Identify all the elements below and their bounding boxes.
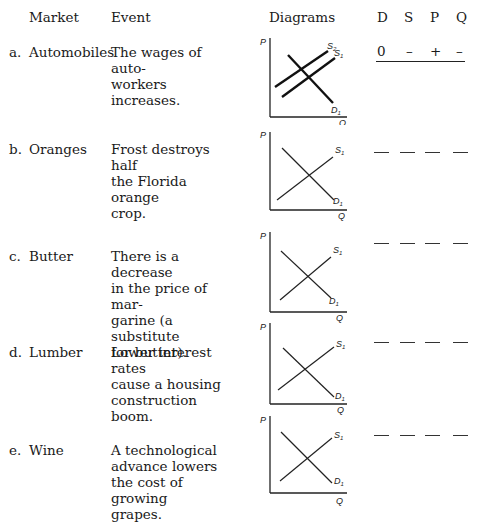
axis-label-p: P [260,415,266,425]
answer-blank-s[interactable] [400,152,415,153]
column-header-d: D [377,9,388,25]
market-name: Lumber [29,344,83,360]
demand-curve-d1 [281,251,331,298]
row-letter: b. [9,141,22,157]
label-d1: D1 [331,105,341,116]
column-header-q: Q [456,9,467,25]
label-d1: D1 [335,391,345,402]
label-d1: D1 [333,196,343,207]
column-header-s: S [404,9,413,25]
answer-blank-d[interactable] [374,243,389,244]
answer-blank-q[interactable] [453,342,468,343]
demand-curve-d1 [283,348,334,397]
row-letter: a. [9,44,21,60]
demand-curve-d1 [282,148,334,200]
supply-demand-diagram: P S1 D1 Q [255,320,365,415]
axis-label-p: P [260,130,266,140]
event-description: The wages of auto- workers increases. [111,44,236,108]
answer-blank-p[interactable] [425,435,440,436]
row-letter: c. [9,248,21,264]
column-header-event: Event [111,9,151,25]
answer-blank-q[interactable] [453,243,468,244]
answer-blank-p[interactable] [425,342,440,343]
axis-label-p: P [260,231,266,241]
answer-blank-d[interactable] [374,152,389,153]
answer-blank-d[interactable] [374,435,389,436]
answer-d: 0 [377,43,386,59]
column-header-p: P [430,9,439,25]
row-letter: e. [9,442,21,458]
answer-underline [376,61,465,62]
answer-blank-s[interactable] [400,243,415,244]
answer-blank-q[interactable] [453,152,468,153]
answer-blank-p[interactable] [425,243,440,244]
market-name: Butter [29,248,73,264]
event-description: Frost destroys half the Florida orange c… [111,141,236,221]
answer-s: – [406,43,413,59]
supply-curve-s1 [277,157,333,200]
supply-curve-s1 [280,257,331,300]
answer-blank-s[interactable] [400,342,415,343]
answer-blank-q[interactable] [453,435,468,436]
event-description: A technological advance lowers the cost … [111,442,236,522]
answer-blank-p[interactable] [425,152,440,153]
demand-curve-d1 [281,432,332,483]
column-header-diagrams: Diagrams [269,9,335,25]
market-name: Oranges [29,141,87,157]
axis-label-p: P [260,322,266,332]
column-header-market: Market [29,9,79,25]
axis-label-p: P [260,37,266,47]
answer-blank-d[interactable] [374,342,389,343]
market-name: Automobiles [29,44,114,60]
supply-demand-diagram: P S1 D1 Q [255,228,365,323]
label-s1: S1 [335,145,344,156]
supply-demand-diagram: P S1 D1 Q [255,130,365,225]
axis-label-q: Q [338,211,345,221]
label-d1: D1 [329,296,339,307]
label-s1: S1 [336,339,345,350]
answer-blank-s[interactable] [400,435,415,436]
answer-p: + [430,43,441,59]
market-name: Wine [29,442,64,458]
label-s1: S1 [333,245,342,256]
supply-demand-diagram: P S2 S1 D1 Q [255,30,365,125]
axis-label-q: Q [336,496,343,506]
label-s1: S1 [334,430,343,441]
axis-label-q: Q [339,118,346,125]
event-description: Lower interest rates cause a housing con… [111,344,236,424]
label-d1: D1 [334,476,344,487]
label-s1: S1 [334,48,343,59]
supply-curve-s1 [278,347,334,390]
answer-q: – [456,43,463,59]
row-letter: d. [9,344,22,360]
supply-demand-diagram: P S1 D1 Q [255,413,365,508]
